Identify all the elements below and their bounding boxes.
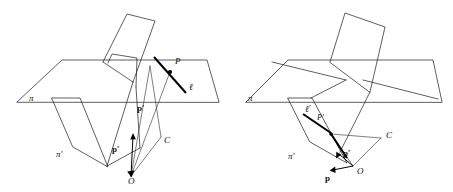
- right-vertical-sheet-below-left: [311, 80, 346, 98]
- right-point-P-prime-label: P′: [317, 114, 324, 122]
- left-point-C-label: C: [164, 136, 170, 145]
- left-vector-p-prime-upper-label: p′: [137, 104, 145, 113]
- left-point-O-label: O: [128, 177, 135, 186]
- right-point-C-label: C: [386, 131, 392, 140]
- right-plane-pi-chord-left: [272, 62, 346, 80]
- figure-root: π π′ P ℓ p′ p′ C O π π′ ℓ′ P′ p′ p C O: [0, 0, 453, 192]
- left-projection-cone-left-edge: [131, 66, 150, 176]
- right-vertical-sheet-below: [340, 92, 370, 152]
- left-plane-pi-prime-label: π′: [56, 150, 62, 159]
- geometry-diagram-svg: [0, 0, 453, 192]
- right-vector-p-prime-arrowhead: [336, 152, 341, 159]
- left-line-ell-label: ℓ: [189, 82, 193, 92]
- left-line-ell: [154, 57, 186, 93]
- left-vector-p-prime-arrowhead: [130, 133, 136, 140]
- right-vertical-sheet: [330, 13, 385, 92]
- right-line-ell-prime-label: ℓ′: [305, 104, 311, 114]
- left-point-P-label: P: [175, 57, 181, 66]
- left-vertical-sheet-back: [103, 14, 155, 82]
- right-plane-pi-label: π: [248, 94, 253, 103]
- left-vertical-sheet-front: [136, 87, 140, 148]
- right-segment-C-to-O: [353, 138, 381, 166]
- left-point-P-dot: [168, 70, 172, 74]
- left-projection-cone-far-edge: [150, 66, 161, 137]
- right-point-O-label: O: [357, 167, 364, 176]
- right-vector-p-shaft: [333, 166, 353, 170]
- right-vector-p-prime-label: p′: [343, 149, 351, 158]
- left-plane-pi-label: π: [29, 94, 34, 103]
- left-projection-cone-right-edge: [131, 137, 161, 176]
- left-vector-p-prime-lower-label: p′: [112, 145, 120, 154]
- right-plane-pi-prime-label: π′: [288, 152, 294, 161]
- right-vector-p-arrowhead: [330, 167, 336, 173]
- right-plane-pi-chord-right: [363, 80, 438, 99]
- left-projection-ray-to-P: [131, 72, 170, 176]
- right-vector-p-label: p: [325, 174, 330, 183]
- left-vertical-sheet-back-close: [103, 62, 133, 82]
- left-vertical-sheet-front-edge: [107, 82, 133, 166]
- right-ray-P-prime-to-C: [331, 134, 381, 138]
